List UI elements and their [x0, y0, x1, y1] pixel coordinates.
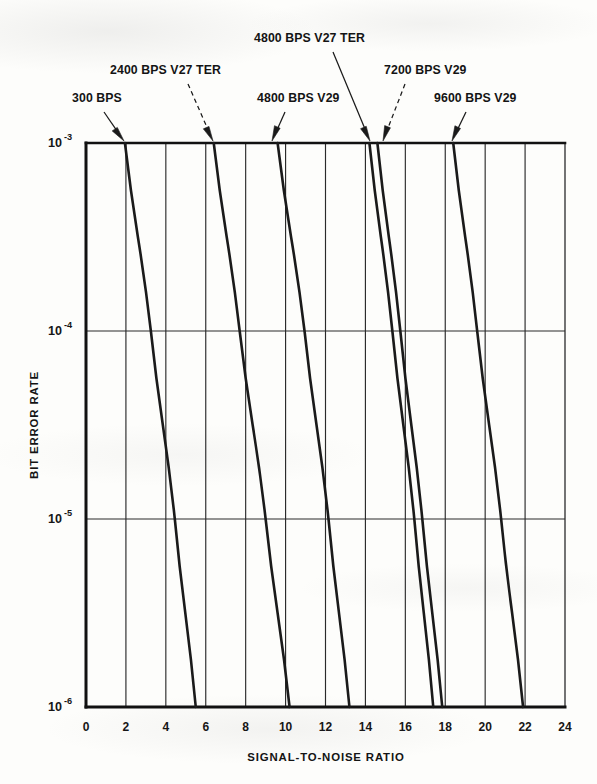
- leader-arrowhead-icon: [452, 126, 461, 141]
- x-tick-label: 0: [83, 720, 90, 734]
- leader-arrowhead-icon: [383, 126, 390, 141]
- y-tick-mantissa: 10: [48, 324, 62, 338]
- curve-4800-bps-v27-ter: [369, 143, 433, 707]
- y-tick-exponent: -4: [64, 320, 73, 330]
- y-tick-mantissa: 10: [48, 512, 62, 526]
- annotation-leader: [383, 84, 405, 141]
- y-tick-exponent: -6: [64, 696, 72, 706]
- y-axis-title: BIT ERROR RATE: [28, 371, 40, 479]
- x-tick-label: 20: [478, 720, 492, 734]
- annotation-label-7200-bps-v29: 7200 BPS V29: [384, 63, 467, 77]
- y-axis-tick-labels: 10-310-410-510-6: [48, 132, 73, 714]
- annotation-leader: [272, 112, 285, 141]
- curve-4800-bps-v29: [278, 143, 350, 707]
- y-tick-exponent: -5: [64, 508, 72, 518]
- chart-canvas: 024681012141618202224 10-310-410-510-6 3…: [0, 0, 597, 784]
- x-tick-label: 18: [439, 720, 453, 734]
- annotation-leader: [104, 112, 124, 141]
- curve-7200-bps-v29: [377, 143, 442, 707]
- leader-arrowhead-icon: [203, 126, 213, 141]
- y-tick-mantissa: 10: [48, 700, 62, 714]
- leader-shaft: [458, 112, 466, 129]
- y-tick-mantissa: 10: [48, 136, 62, 150]
- leader-shaft: [388, 84, 405, 129]
- leader-arrowhead-icon: [272, 126, 280, 141]
- x-axis-title: SIGNAL-TO-NOISE RATIO: [247, 751, 404, 763]
- x-tick-label: 14: [359, 720, 373, 734]
- data-curves: [125, 143, 523, 707]
- x-tick-label: 24: [558, 720, 572, 734]
- leader-arrowhead-icon: [361, 126, 370, 141]
- x-axis-tick-labels: 024681012141618202224: [83, 720, 572, 734]
- y-tick-label: 10-5: [48, 508, 72, 526]
- y-tick-label: 10-3: [48, 132, 72, 150]
- x-tick-label: 16: [399, 720, 413, 734]
- x-tick-label: 22: [518, 720, 532, 734]
- annotation-label-4800-bps-v27-ter: 4800 BPS V27 TER: [254, 31, 365, 45]
- x-tick-label: 12: [319, 720, 333, 734]
- curve-300-bps: [125, 143, 196, 707]
- annotation-leader: [452, 112, 466, 141]
- x-tick-label: 10: [279, 720, 293, 734]
- curve-9600-bps-v29: [453, 143, 523, 707]
- leader-shaft: [104, 112, 117, 130]
- y-tick-label: 10-6: [48, 696, 72, 714]
- annotation-label-9600-bps-v29: 9600 BPS V29: [434, 91, 517, 105]
- x-tick-label: 4: [162, 720, 169, 734]
- series-annotation-labels: 300 BPS2400 BPS V27 TER4800 BPS V294800 …: [72, 31, 517, 105]
- annotation-leader: [188, 84, 213, 141]
- leader-arrowhead-icon: [112, 127, 124, 141]
- y-tick-label: 10-4: [48, 320, 73, 338]
- x-tick-label: 8: [242, 720, 249, 734]
- bit-error-rate-chart: 024681012141618202224 10-310-410-510-6 3…: [0, 0, 597, 784]
- leader-shaft: [277, 112, 285, 129]
- annotation-label-4800-bps-v29: 4800 BPS V29: [257, 91, 340, 105]
- curve-2400-bps-v27-ter: [214, 143, 290, 707]
- leader-shaft: [188, 84, 208, 129]
- x-tick-label: 6: [202, 720, 209, 734]
- y-tick-exponent: -3: [64, 132, 72, 142]
- vertical-gridlines: [126, 143, 565, 707]
- x-tick-label: 2: [123, 720, 130, 734]
- annotation-label-300-bps: 300 BPS: [72, 91, 122, 105]
- annotation-label-2400-bps-v27-ter: 2400 BPS V27 TER: [110, 63, 221, 77]
